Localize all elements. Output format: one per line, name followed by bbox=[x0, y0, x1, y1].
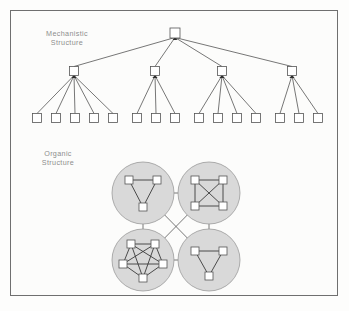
cluster-node bbox=[191, 176, 199, 184]
cluster-node bbox=[153, 176, 161, 184]
cluster-node bbox=[219, 202, 227, 210]
cluster-node bbox=[159, 260, 167, 268]
cluster-node bbox=[119, 260, 127, 268]
cluster-circle-top-left bbox=[112, 162, 174, 224]
organic-structure-diagram bbox=[0, 0, 349, 311]
cluster-node bbox=[151, 240, 159, 248]
cluster-node bbox=[127, 240, 135, 248]
cluster-node bbox=[191, 247, 199, 255]
cluster-node bbox=[139, 274, 147, 282]
cluster-node bbox=[205, 272, 213, 280]
cluster-node bbox=[125, 176, 133, 184]
cluster-node bbox=[219, 247, 227, 255]
cluster-node bbox=[219, 176, 227, 184]
organizational-structure-figure: Mechanistic Structure Organic Structure bbox=[0, 0, 349, 311]
cluster-node bbox=[191, 202, 199, 210]
cluster-circle-bottom-right bbox=[178, 229, 240, 291]
cluster-node bbox=[139, 203, 147, 211]
